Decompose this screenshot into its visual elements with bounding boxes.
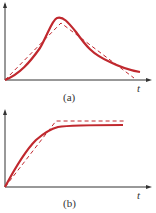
smooth-curve <box>5 125 123 187</box>
smooth-curve <box>5 18 140 80</box>
caption-a: (a) <box>63 91 75 103</box>
t-axis-label: t <box>137 82 140 94</box>
dashed-approximation <box>5 23 134 80</box>
panel-b: t (b) <box>0 106 156 213</box>
panel-a: t (a) <box>0 0 156 106</box>
chart-a <box>0 0 156 106</box>
y-axis-arrow-icon <box>3 109 7 115</box>
chart-b <box>0 106 156 213</box>
t-axis-label: t <box>137 189 140 201</box>
x-axis-arrow-icon <box>146 185 152 189</box>
caption-b: (b) <box>63 197 76 209</box>
y-axis-arrow-icon <box>3 2 7 8</box>
dashed-approximation <box>5 121 124 187</box>
x-axis-arrow-icon <box>146 78 152 82</box>
